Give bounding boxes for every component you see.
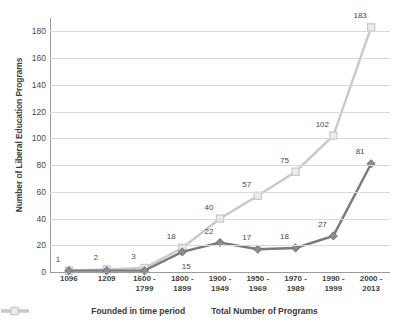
data-label: 183 xyxy=(353,11,366,20)
x-tick-line: 2013 xyxy=(348,284,394,294)
gridline xyxy=(50,112,390,113)
data-label: 18 xyxy=(280,231,289,240)
y-tick-label: 60 xyxy=(20,187,46,197)
x-tick-line: 2000 - xyxy=(348,274,394,284)
gridline xyxy=(50,192,390,193)
legend-item[interactable]: Total Number of Programs xyxy=(211,306,318,316)
data-label: 18 xyxy=(167,231,176,240)
data-label: 40 xyxy=(205,202,214,211)
legend-marker-icon xyxy=(0,306,30,316)
y-tick-label: 160 xyxy=(20,53,46,63)
gridline xyxy=(50,245,390,246)
data-label: 75 xyxy=(280,155,289,164)
line-chart: Number of Liberal Education Programs 020… xyxy=(0,0,409,332)
data-label: 1 xyxy=(56,254,60,263)
data-point-marker xyxy=(368,24,375,31)
y-tick-label: 120 xyxy=(20,107,46,117)
y-tick-label: 80 xyxy=(20,160,46,170)
y-axis-ticks: 020406080100120140160180 xyxy=(18,0,46,332)
chart-legend: Founded in time periodTotal Number of Pr… xyxy=(0,306,409,316)
series-lines xyxy=(50,18,390,272)
y-tick-label: 100 xyxy=(20,133,46,143)
plot-area: 12318405775102183152217182781 xyxy=(50,18,390,272)
legend-label: Founded in time period xyxy=(91,306,185,316)
series-line xyxy=(69,27,371,270)
gridline xyxy=(50,31,390,32)
gridline xyxy=(50,85,390,86)
gridline xyxy=(50,272,390,273)
data-label: 2 xyxy=(93,253,97,262)
y-tick-label: 140 xyxy=(20,80,46,90)
x-tick-label: 2000 -2013 xyxy=(348,274,394,294)
y-tick-label: 20 xyxy=(20,240,46,250)
y-tick-label: 180 xyxy=(20,26,46,36)
x-axis-ticks: 109612091600 -17991800 -18991900 -194919… xyxy=(50,274,390,304)
gridline xyxy=(50,219,390,220)
y-tick-label: 40 xyxy=(20,214,46,224)
data-label: 27 xyxy=(318,219,327,228)
legend-item[interactable]: Founded in time period xyxy=(91,306,185,316)
data-label: 102 xyxy=(316,119,329,128)
data-label: 22 xyxy=(205,226,214,235)
data-label: 17 xyxy=(242,233,251,242)
data-label: 3 xyxy=(131,251,135,260)
gridline xyxy=(50,165,390,166)
data-point-marker xyxy=(292,168,299,175)
data-point-marker xyxy=(254,192,261,199)
gridline xyxy=(50,58,390,59)
gridline xyxy=(50,138,390,139)
data-label: 57 xyxy=(242,179,251,188)
y-tick-label: 0 xyxy=(20,267,46,277)
data-label: 15 xyxy=(182,261,191,270)
data-point-marker xyxy=(254,245,262,253)
legend-label: Total Number of Programs xyxy=(211,306,318,316)
data-label: 81 xyxy=(356,146,365,155)
